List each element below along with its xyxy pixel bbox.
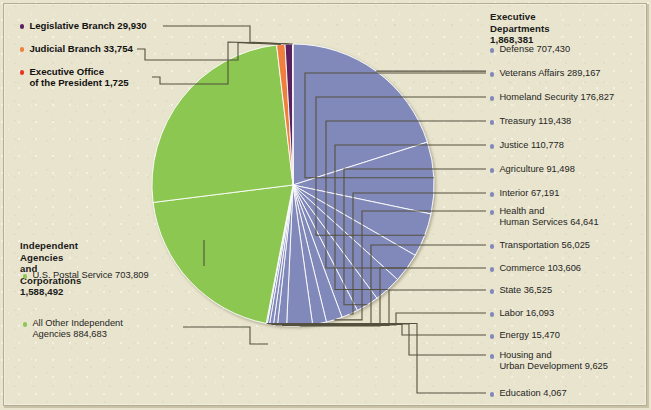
department-label-wrap: Commerce 103,606 [499,263,581,274]
department-label-wrap: Homeland Security 176,827 [499,92,614,103]
department-bullet-icon [490,144,494,148]
legend-item-executive-office[interactable]: Executive Office of the President 1,725 [20,66,129,89]
legend-item-homeland[interactable]: Homeland Security 176,827 [490,92,614,103]
all-other-independent-label-line1: All Other Independent [32,318,122,329]
legend-item-transportation[interactable]: Transportation 56,025 [490,240,590,251]
department-bullet-icon [490,168,494,172]
department-label: Labor 16,093 [499,308,554,319]
independent-agencies-heading-line1: Independent Agencies [20,240,81,263]
legislative-branch-bullet-icon [20,24,24,28]
department-bullet-icon [490,289,494,293]
judicial-branch-bullet-icon [20,47,24,51]
department-label-wrap: Interior 67,191 [499,188,559,199]
department-label: State 36,525 [499,285,552,296]
legend-item-veterans[interactable]: Veterans Affairs 289,167 [490,68,601,79]
all-other-independent-label-wrap: All Other Independent Agencies 884,683 [32,318,122,341]
leader-line [268,324,486,355]
judicial-branch-label: Judicial Branch 33,754 [29,43,132,54]
department-label-wrap: Health andHuman Services 64,641 [499,206,598,229]
department-label-wrap: Labor 16,093 [499,308,554,319]
legend-item-treasury[interactable]: Treasury 119,438 [490,116,571,127]
department-bullet-icon [490,267,494,271]
pie-slices [152,44,434,326]
department-label: Housing and [499,350,608,361]
department-label-wrap: Agriculture 91,498 [499,164,574,175]
department-bullet-icon [490,334,494,338]
department-bullet-icon [490,192,494,196]
legend-item-agriculture[interactable]: Agriculture 91,498 [490,164,575,175]
independent-agencies-heading: Independent Agencies and Corporations 1,… [20,240,81,298]
legislative-branch-label: Legislative Branch 29,930 [29,20,146,31]
department-label-wrap: Veterans Affairs 289,167 [499,68,600,79]
legend-item-defense[interactable]: Defense 707,430 [490,44,570,55]
department-label: Health and [499,206,598,217]
department-label: Interior 67,191 [499,188,559,199]
department-label-wrap: Transportation 56,025 [499,240,590,251]
legend-item-usps[interactable]: U.S. Postal Service 703,809 [23,270,149,281]
department-label-wrap: Treasury 119,438 [499,116,571,127]
legend-item-legislative-branch[interactable]: Legislative Branch 29,930 [20,20,147,31]
department-label-line2: Human Services 64,641 [499,217,598,228]
department-label: Homeland Security 176,827 [499,92,614,103]
department-label: Justice 110,778 [499,140,563,151]
executive-departments-heading-line1: Executive Departments [490,11,550,34]
legend-item-labor[interactable]: Labor 16,093 [490,308,554,319]
department-label-wrap: State 36,525 [499,285,552,296]
all-other-independent-label-line2: Agencies 884,683 [32,329,122,340]
department-bullet-icon [490,120,494,124]
usps-bullet-icon [23,274,27,278]
department-bullet-icon [490,210,494,214]
chart-canvas: Legislative Branch 29,930 Judicial Branc… [0,0,651,410]
legend-item-education[interactable]: Education 4,067 [490,388,567,399]
leader-line-legislative [163,26,289,44]
executive-office-label-wrap: Executive Office of the President 1,725 [29,66,128,89]
executive-departments-heading: Executive Departments 1,868,381 [490,11,550,46]
pie-slice[interactable] [152,45,293,202]
department-bullet-icon [490,244,494,248]
department-label: Agriculture 91,498 [499,164,574,175]
department-label: Transportation 56,025 [499,240,590,251]
pie-chart-svg [0,0,651,410]
department-bullet-icon [490,354,494,358]
department-label-wrap: Education 4,067 [499,388,566,399]
legend-item-all-other-independent[interactable]: All Other Independent Agencies 884,683 [23,318,123,341]
legend-item-interior[interactable]: Interior 67,191 [490,188,559,199]
leader-line [267,324,486,393]
department-label-wrap: Housing andUrban Development 9,625 [499,350,608,373]
department-label: Energy 15,470 [499,330,559,341]
department-label-wrap: Defense 707,430 [499,44,570,55]
department-bullet-icon [490,392,494,396]
department-label: Veterans Affairs 289,167 [499,68,600,79]
department-bullet-icon [490,48,494,52]
department-bullet-icon [490,72,494,76]
executive-office-label-line2: of the President 1,725 [29,77,128,88]
legend-item-judicial-branch[interactable]: Judicial Branch 33,754 [20,43,133,54]
department-label: Defense 707,430 [499,44,570,55]
department-label: Treasury 119,438 [499,116,571,127]
legend-item-housing[interactable]: Housing andUrban Development 9,625 [490,350,608,373]
department-label: Commerce 103,606 [499,263,581,274]
department-label-wrap: Energy 15,470 [499,330,559,341]
executive-office-bullet-icon [20,70,24,74]
usps-label: U.S. Postal Service 703,809 [32,270,148,281]
legend-item-state[interactable]: State 36,525 [490,285,552,296]
leader-line-all-other [183,327,268,344]
legend-item-energy[interactable]: Energy 15,470 [490,330,560,341]
all-other-independent-bullet-icon [23,322,27,326]
department-label-wrap: Justice 110,778 [499,140,563,151]
executive-office-label-line1: Executive Office [29,66,128,77]
department-bullet-icon [490,312,494,316]
department-bullet-icon [490,96,494,100]
legend-item-justice[interactable]: Justice 110,778 [490,140,564,151]
department-label: Education 4,067 [499,388,566,399]
legend-item-health[interactable]: Health andHuman Services 64,641 [490,206,599,229]
legend-item-commerce[interactable]: Commerce 103,606 [490,263,581,274]
department-label-line2: Urban Development 9,625 [499,361,608,372]
